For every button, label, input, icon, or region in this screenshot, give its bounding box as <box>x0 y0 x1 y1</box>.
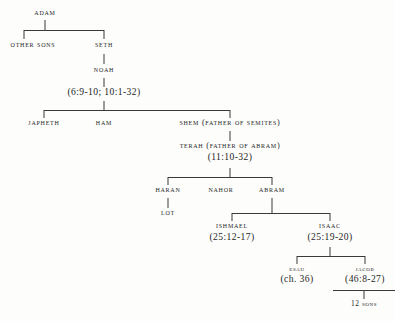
connector-abram-sons-bar <box>232 213 330 214</box>
connector-seth-noah <box>104 54 105 64</box>
node-seth: SETH <box>95 41 113 50</box>
node-nahor-label: NAHOR <box>208 186 233 195</box>
connector-shem-stub <box>230 110 231 118</box>
node-ham: HAM <box>96 119 112 128</box>
node-abram-label: ABRAM <box>259 186 285 195</box>
node-lot-label: LOT <box>161 209 175 218</box>
node-noah-reference: (6:9-10; 10:1-32) <box>67 87 140 97</box>
node-haran: HARAN <box>155 186 180 195</box>
connector-adam-children-bar <box>24 30 104 31</box>
node-noah-reference-label: (6:9-10; 10:1-32) <box>67 87 140 97</box>
connector-shem-terah <box>230 131 231 141</box>
node-jacob: JACOB (46:8-27) <box>345 265 385 284</box>
node-jacob-reference: (46:8-27) <box>345 274 385 284</box>
connector-japheth-stub <box>44 110 45 118</box>
node-adam-label: ADAM <box>34 9 55 18</box>
connector-noah-sons-stem <box>104 101 105 110</box>
node-lot: LOT <box>161 209 175 218</box>
node-japheth-label: JAPHETH <box>28 119 59 128</box>
connector-adam-stem <box>45 20 46 30</box>
node-shem-label: SHEM (FATHER OF SEMITES) <box>179 119 280 128</box>
node-ham-label: HAM <box>96 119 112 128</box>
connector-esau-stub <box>297 256 298 264</box>
connector-terah-sons-stem <box>230 168 231 177</box>
connector-haran-stub <box>168 177 169 185</box>
node-abram: ABRAM <box>259 186 285 195</box>
node-ishmael-reference: (25:12-17) <box>209 232 254 242</box>
node-esau-reference: (ch. 36) <box>280 274 313 284</box>
connector-noah-sons-bar <box>44 110 230 111</box>
connector-isaac-sons-stem <box>330 247 331 256</box>
connector-ishmael-stub <box>232 213 233 221</box>
node-esau-label: ESAU <box>280 265 313 273</box>
node-esau: ESAU (ch. 36) <box>280 265 313 284</box>
node-noah-label: NOAH <box>94 66 114 75</box>
node-haran-label: HARAN <box>155 186 180 195</box>
connector-other-sons-stub <box>24 30 25 39</box>
node-terah-label: TERAH (FATHER OF ABRAM) <box>180 142 281 151</box>
node-isaac-reference: (25:19-20) <box>307 232 352 242</box>
node-ishmael-label: ISHMAEL <box>209 222 254 231</box>
node-nahor: NAHOR <box>208 186 233 195</box>
connector-jacob-stub <box>365 256 366 264</box>
connector-jacob-sons-stem <box>364 290 365 299</box>
connector-isaac-stub <box>330 213 331 221</box>
node-other-sons: OTHER SONS <box>11 41 56 50</box>
connector-isaac-sons-bar <box>297 256 365 257</box>
node-noah: NOAH <box>94 66 114 75</box>
connector-haran-lot <box>168 198 169 208</box>
connector-seth-stub <box>104 30 105 39</box>
node-isaac: ISAAC (25:19-20) <box>307 222 352 242</box>
node-twelve-sons-label: 12 SONS <box>351 300 377 308</box>
node-jacob-label: JACOB <box>345 265 385 273</box>
connector-terah-sons-bar <box>168 177 272 178</box>
connector-abram-sons-stem <box>272 198 273 213</box>
node-other-sons-label: OTHER SONS <box>11 41 56 50</box>
node-ishmael: ISHMAEL (25:12-17) <box>209 222 254 242</box>
node-terah-reference: (11:10-32) <box>180 152 281 162</box>
node-twelve-sons: 12 SONS <box>351 300 377 308</box>
node-adam: ADAM <box>34 9 55 18</box>
genealogy-chart: ADAM OTHER SONS SETH NOAH (6:9-10; 10:1-… <box>0 0 395 321</box>
node-seth-label: SETH <box>95 41 113 50</box>
node-japheth: JAPHETH <box>28 119 59 128</box>
node-terah: TERAH (FATHER OF ABRAM) (11:10-32) <box>180 142 281 162</box>
connector-abram-stub <box>272 177 273 185</box>
node-shem: SHEM (FATHER OF SEMITES) <box>179 119 280 128</box>
node-isaac-label: ISAAC <box>307 222 352 231</box>
